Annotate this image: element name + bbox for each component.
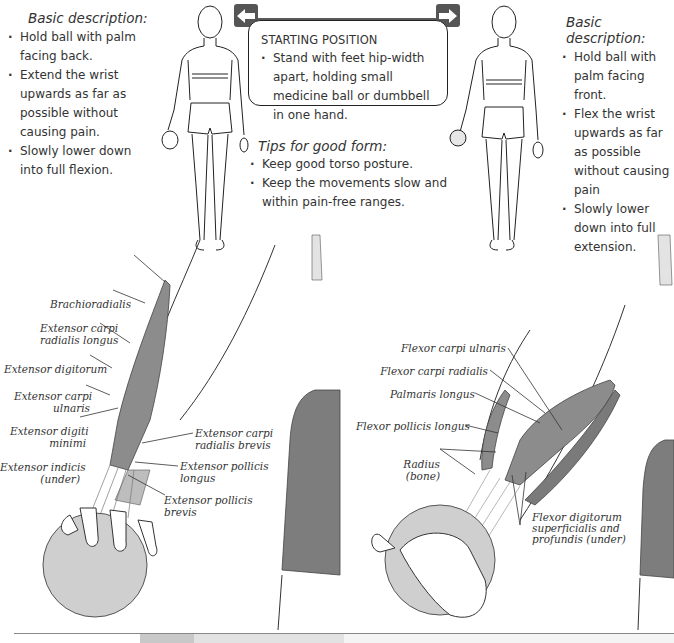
label-extensor-carpi-radialis-brevis: Extensor carpi radialis brevis (195, 427, 273, 451)
starting-position-box: STARTING POSITION Stand with feet hip-wi… (248, 20, 448, 106)
label-flexor-digitorum: Flexor digitorum superficialis and profu… (532, 512, 626, 545)
list-item: Keep the movements slow and within pain-… (250, 174, 460, 212)
label-flexor-carpi-ulnaris: Flexor carpi ulnaris (400, 342, 506, 354)
list-item: Keep good torso posture. (250, 155, 460, 174)
tips-list: Keep good torso posture. Keep the moveme… (250, 155, 460, 212)
tips-title: Tips for good form: (258, 138, 460, 154)
label-extensor-digitorum: Extensor digitorum (4, 363, 102, 375)
bottom-strip (14, 633, 674, 643)
list-item: Stand with feet hip-width apart, holding… (261, 49, 437, 125)
label-flexor-carpi-radialis: Flexor carpi radialis (380, 365, 488, 377)
label-extensor-pollicis-brevis: Extensor pollicis brevis (164, 494, 253, 518)
label-extensor-carpi-radialis-longus: Extensor carpi radialis longus (40, 322, 114, 346)
bottom-strip-segment (344, 634, 674, 643)
label-flexor-pollicis-longus: Flexor pollicis longus (356, 420, 464, 432)
list-item: Slowly lower down into full flexion. (8, 142, 158, 180)
bottom-strip-segment (140, 634, 194, 643)
starting-position-list: Stand with feet hip-width apart, holding… (261, 49, 437, 125)
label-extensor-indicis: Extensor indicis (under) (0, 461, 80, 485)
label-extensor-carpi-ulnaris: Extensor carpi ulnaris (14, 390, 90, 414)
list-item: Extend the wrist upwards as far as possi… (8, 66, 158, 142)
label-extensor-digiti-minimi: Extensor digiti minimi (10, 425, 86, 449)
label-radius-bone: Radius (bone) (400, 458, 440, 482)
label-brachioradialis: Brachioradialis (50, 298, 130, 310)
bottom-strip-segment (194, 634, 344, 643)
label-palmaris-longus: Palmaris longus (390, 388, 472, 400)
list-item: Flex the wrist upwards as far as possibl… (562, 105, 674, 200)
tips-section: Tips for good form: Keep good torso post… (250, 138, 460, 212)
bottom-strip-segment (14, 634, 140, 643)
right-description-list: Hold ball with palm facing front. Flex t… (562, 48, 674, 257)
label-extensor-pollicis-longus: Extensor pollicis longus (180, 460, 269, 484)
starting-position-title: STARTING POSITION (261, 33, 437, 47)
standing-figure-right (448, 0, 548, 255)
standing-figure-left (160, 0, 260, 255)
